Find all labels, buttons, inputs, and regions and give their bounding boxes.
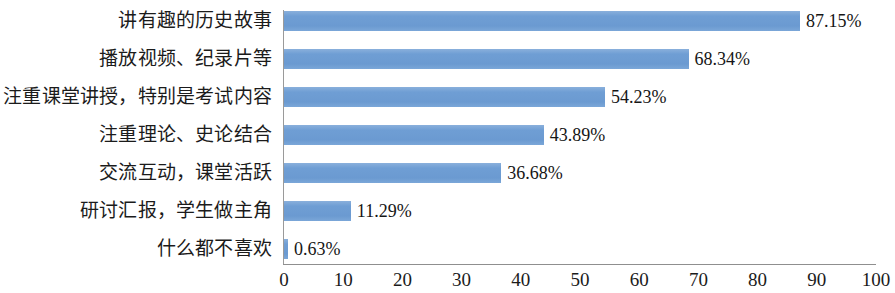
x-tick-label: 0 xyxy=(254,266,314,293)
x-tick-label: 90 xyxy=(787,266,847,293)
bar[interactable] xyxy=(284,87,605,107)
bar-track: 87.15% xyxy=(284,2,884,40)
x-tick-label: 20 xyxy=(372,266,432,293)
x-tick-label: 40 xyxy=(491,266,551,293)
category-label: 注重理论、史论结合 xyxy=(0,116,278,154)
bar-row: 播放视频、纪录片等68.34% xyxy=(0,40,884,78)
x-tick-label: 10 xyxy=(313,266,373,293)
category-label: 交流互动，课堂活跃 xyxy=(0,154,278,192)
category-label: 讲有趣的历史故事 xyxy=(0,2,278,40)
bar-value-label: 68.34% xyxy=(689,49,751,69)
category-label: 播放视频、纪录片等 xyxy=(0,40,278,78)
category-label: 研讨汇报，学生做主角 xyxy=(0,192,278,230)
bar[interactable] xyxy=(284,125,544,145)
bar-value-label: 36.68% xyxy=(501,163,563,183)
bar-value-label: 43.89% xyxy=(544,125,606,145)
bar-track: 54.23% xyxy=(284,78,884,116)
x-tick-label: 30 xyxy=(432,266,492,293)
bar-row: 讲有趣的历史故事87.15% xyxy=(0,2,884,40)
bar-row: 研讨汇报，学生做主角11.29% xyxy=(0,192,884,230)
bar-track: 36.68% xyxy=(284,154,884,192)
category-label: 什么都不喜欢 xyxy=(0,230,278,268)
bar-row: 交流互动，课堂活跃36.68% xyxy=(0,154,884,192)
category-label: 注重课堂讲授，特别是考试内容 xyxy=(0,78,278,116)
bar-row: 注重课堂讲授，特别是考试内容54.23% xyxy=(0,78,884,116)
x-tick-label: 50 xyxy=(550,266,610,293)
bar-value-label: 87.15% xyxy=(800,11,862,31)
x-axis-line xyxy=(283,264,876,265)
bar[interactable] xyxy=(284,49,689,69)
x-tick-label: 100 xyxy=(846,266,895,293)
bar[interactable] xyxy=(284,11,800,31)
bar-track: 11.29% xyxy=(284,192,884,230)
bar-rows-container: 讲有趣的历史故事87.15%播放视频、纪录片等68.34%注重课堂讲授，特别是考… xyxy=(0,0,884,264)
x-axis-tick-labels: 0102030405060708090100 xyxy=(0,266,884,293)
bar-track: 0.63% xyxy=(284,230,884,268)
bar-track: 68.34% xyxy=(284,40,884,78)
bar[interactable] xyxy=(284,163,501,183)
bar-track: 43.89% xyxy=(284,116,884,154)
x-tick-label: 80 xyxy=(728,266,788,293)
bar[interactable] xyxy=(284,201,351,221)
bar-value-label: 54.23% xyxy=(605,87,667,107)
bar-row: 什么都不喜欢0.63% xyxy=(0,230,884,268)
x-tick-label: 60 xyxy=(609,266,669,293)
y-axis-line xyxy=(283,10,284,264)
x-tick-label: 70 xyxy=(668,266,728,293)
bar-value-label: 0.63% xyxy=(288,239,341,259)
bar-row: 注重理论、史论结合43.89% xyxy=(0,116,884,154)
bar-value-label: 11.29% xyxy=(351,201,412,221)
